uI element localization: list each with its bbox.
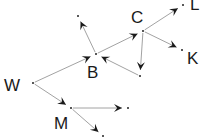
node-label-k: K: [187, 49, 199, 68]
node-label-l: L: [190, 0, 199, 14]
labels: W B C L K M: [4, 0, 199, 133]
node-dot-b: [95, 53, 97, 55]
node-dot-k: [181, 49, 183, 51]
edge-n2-to-b: [101, 57, 138, 75]
node-dot-n4: [102, 135, 104, 137]
edge-c-to-l: [145, 8, 178, 30]
node-dot-c: [142, 30, 144, 32]
node-dot-n3: [127, 107, 129, 109]
node-label-b: B: [87, 63, 98, 82]
node-dot-w: [32, 82, 34, 84]
edge-b-to-c: [98, 34, 138, 53]
edge-w-to-m: [35, 84, 66, 105]
edge-c-to-k: [145, 32, 177, 47]
edge-b-to-n1: [81, 21, 96, 52]
edge-w-to-b: [35, 57, 91, 83]
edge-m-to-n4: [73, 109, 99, 132]
node-dot-n1: [77, 15, 79, 17]
arrowhead-icon: [57, 97, 66, 105]
node-dot-m: [70, 107, 72, 109]
node-label-m: M: [54, 114, 68, 133]
node-dot-l: [182, 4, 184, 6]
node-label-w: W: [4, 76, 20, 95]
arrowhead-icon: [169, 8, 178, 16]
node-dot-n2: [139, 75, 141, 77]
directed-graph: W B C L K M: [0, 0, 203, 138]
node-label-c: C: [131, 8, 143, 27]
